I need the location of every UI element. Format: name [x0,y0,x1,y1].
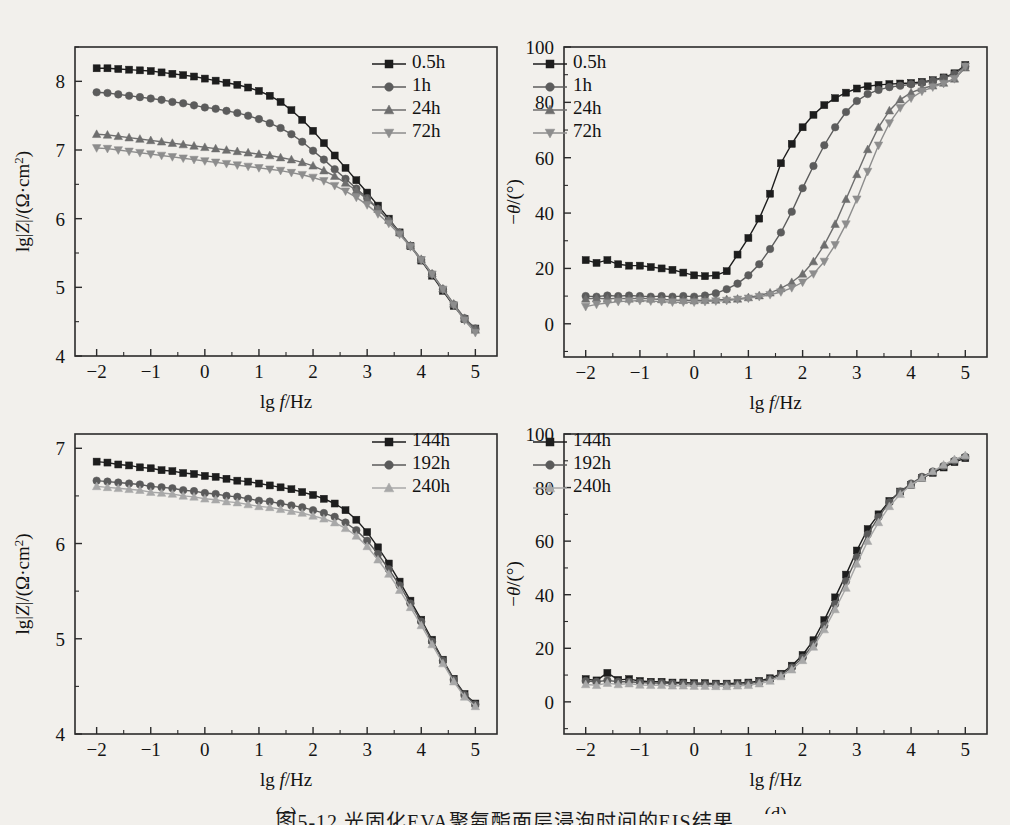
legend-marker-square [385,60,393,68]
legend-label: 1h [573,74,593,95]
data-point [266,482,273,489]
data-point [626,262,633,269]
data-point [147,68,154,75]
data-point [342,507,349,514]
data-point [853,170,861,178]
legend-item[interactable]: 192h [372,452,451,473]
panel-a-yticklabel: 5 [56,277,66,298]
data-point [320,178,328,186]
data-point [777,160,784,167]
data-point [712,272,719,279]
data-point [874,142,882,150]
panel-b-yticklabel: 100 [526,37,555,58]
data-point [277,484,284,491]
data-point [201,75,208,82]
panel-c-yaxis-title: lg|Z|/(Ω·cm2) [11,533,34,634]
data-point [266,119,274,127]
panel-b-series-72h [581,63,969,311]
legend-item[interactable]: 240h [372,475,451,496]
panel-d-xticklabel: 3 [852,739,862,760]
panel-c-xticklabel: 2 [308,739,318,760]
panel-a-series-72h [92,145,479,337]
panel-c-xaxis-title: lg f/Hz [260,769,312,790]
data-point [320,495,327,502]
panel-d-yticklabel: 0 [545,692,555,713]
data-point [299,489,306,496]
data-point [126,462,133,469]
legend-item[interactable]: 72h [533,120,602,141]
panel-c-xticklabel: 0 [200,739,210,760]
panel-d-yticklabel: 60 [535,531,554,552]
panel-a-xticklabel: 4 [417,361,427,382]
data-point [745,272,753,280]
data-point [104,459,111,466]
panel-a-xticklabel: 3 [362,361,372,382]
data-point [190,102,198,110]
data-point [799,184,807,192]
data-point [853,97,861,105]
legend-label: 24h [573,97,602,118]
legend-label: 72h [573,120,602,141]
panel-d-yaxis-title: −θ/(°) [505,561,525,607]
panel-b-xticklabel: 1 [744,362,754,383]
data-point [310,127,317,134]
legend-item[interactable]: 144h [372,429,451,450]
panel-b-yticklabel: 40 [535,203,554,224]
data-point [255,115,263,123]
data-point [93,89,101,97]
data-point [180,72,187,79]
legend-item[interactable]: 72h [372,120,441,141]
legend-item[interactable]: 24h [372,97,441,118]
data-point [330,182,338,190]
data-point [831,220,839,228]
panel-b-xticklabel: −1 [630,362,650,383]
data-point [864,83,871,90]
panel-a-xaxis-title: lg f/Hz [260,391,312,412]
panel-a-xticklabel: 1 [254,361,264,382]
data-point [201,104,209,112]
data-point [277,98,284,105]
data-point [115,91,123,99]
data-point [330,172,338,180]
panel-b-xticklabel: −2 [576,362,596,383]
data-point [734,251,741,258]
panel-b-xticklabel: 5 [961,362,971,383]
panel-a-series-24h [92,130,479,333]
legend-item[interactable]: 192h [533,452,612,473]
data-point [288,486,295,493]
data-point [115,461,122,468]
panel-a-xticklabel: −1 [141,361,161,382]
panel-c: −2−10123454567144h192h240hlg f/Hzlg|Z|/(… [0,414,505,814]
data-point [255,87,262,94]
data-point [93,65,100,72]
panel-d-series-144h [582,455,969,688]
data-point [853,196,861,204]
data-point [809,271,817,279]
legend-label: 240h [573,475,612,496]
data-point [212,473,219,480]
panel-c-xticklabel: −2 [87,739,107,760]
legend-marker-square [546,60,554,68]
legend-item[interactable]: 1h [372,74,432,95]
data-point [821,141,829,149]
data-point [234,81,241,88]
legend-label: 192h [573,452,612,473]
data-point [842,221,850,229]
panel-c-series-192h [93,477,479,708]
panel-d-yticklabel: 20 [535,638,554,659]
data-point [255,480,262,487]
panel-c-xticklabel: −1 [141,739,161,760]
panel-d-xticklabel: −1 [630,739,650,760]
data-point [93,458,100,465]
data-point [299,116,306,123]
panel-b-yticklabel: 0 [545,314,555,335]
panel-c-yticklabel: 6 [56,534,66,555]
data-point [767,190,774,197]
panel-b-yaxis-title: −θ/(°) [505,179,525,225]
legend-item[interactable]: 0.5h [372,51,446,72]
data-point [92,130,100,138]
data-point [810,111,817,118]
panel-b-xticklabel: 0 [689,362,699,383]
panel-d-yticklabel: 40 [535,585,554,606]
data-point [353,516,360,523]
